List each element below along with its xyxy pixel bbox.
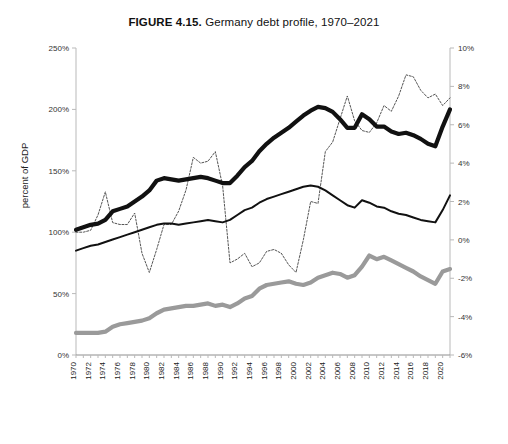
x-tick-label: 2010 — [362, 361, 371, 379]
y-tick-label-right: 6% — [458, 121, 470, 130]
y-tick-label-right: 0% — [458, 236, 470, 245]
x-tick-label: 2014 — [392, 361, 401, 379]
y-tick-label-left: 0% — [57, 351, 69, 360]
x-tick-label: 1976 — [113, 361, 122, 379]
x-tick-label: 1978 — [128, 361, 137, 379]
chart-svg: 0%50%100%150%200%250%-6%-4%-2%0%2%4%6%8%… — [0, 0, 508, 444]
x-tick-label: 2012 — [377, 361, 386, 379]
x-tick-label: 1992 — [230, 361, 239, 379]
x-tick-label: 1994 — [245, 361, 254, 379]
x-tick-label: 2006 — [333, 361, 342, 379]
y-tick-label-right: 4% — [458, 159, 470, 168]
x-tick-label: 2004 — [318, 361, 327, 379]
series-line-public-debt-to-gdp — [76, 256, 450, 333]
x-tick-label: 2002 — [304, 361, 313, 379]
y-tick-label-right: -6% — [458, 351, 472, 360]
x-tick-label: 1972 — [84, 361, 93, 379]
x-tick-label: 2018 — [421, 361, 430, 379]
x-tick-label: 1980 — [142, 361, 151, 379]
x-tick-label: 1988 — [201, 361, 210, 379]
series-line-current-account-balance-to-gdp-right-axis-scale — [76, 75, 450, 273]
y-tick-label-left: 250% — [49, 44, 69, 53]
x-tick-label: 2008 — [348, 361, 357, 379]
y-tick-label-right: -2% — [458, 274, 472, 283]
x-tick-label: 1970 — [69, 361, 78, 379]
y-tick-label-left: 200% — [49, 105, 69, 114]
x-tick-label: 2020 — [436, 361, 445, 379]
x-tick-label: 2016 — [406, 361, 415, 379]
y-tick-label-right: -4% — [458, 313, 472, 322]
y-tick-label-left: 50% — [53, 290, 69, 299]
y-tick-label-left: 100% — [49, 228, 69, 237]
y-tick-label-right: 2% — [458, 198, 470, 207]
y-tick-label-right: 8% — [458, 82, 470, 91]
x-tick-label: 1974 — [98, 361, 107, 379]
x-tick-label: 1998 — [274, 361, 283, 379]
figure-container: FIGURE 4.15. Germany debt profile, 1970–… — [0, 0, 508, 444]
x-tick-label: 1982 — [157, 361, 166, 379]
x-tick-label: 1984 — [172, 361, 181, 379]
x-tick-label: 1990 — [216, 361, 225, 379]
y-tick-label-right: 10% — [458, 44, 474, 53]
x-tick-label: 2000 — [289, 361, 298, 379]
x-tick-label: 1996 — [260, 361, 269, 379]
series-line-private-debt-to-gdp — [76, 186, 450, 251]
y-tick-label-left: 150% — [49, 167, 69, 176]
x-tick-label: 1986 — [186, 361, 195, 379]
